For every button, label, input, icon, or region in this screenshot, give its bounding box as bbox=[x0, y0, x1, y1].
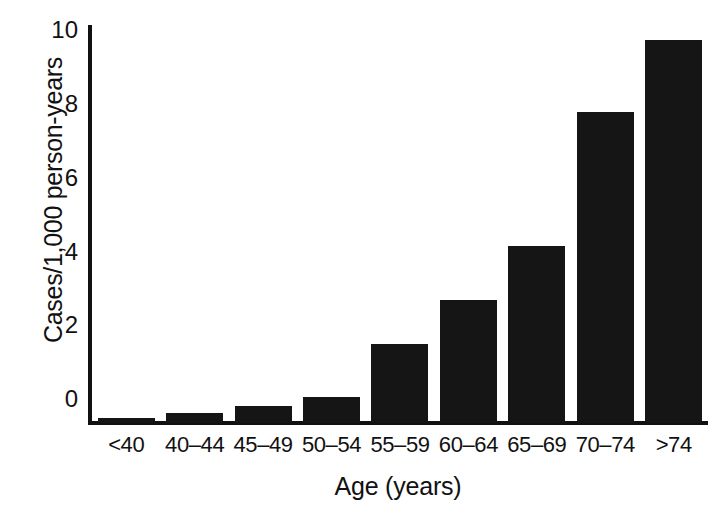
bar[interactable] bbox=[303, 397, 360, 423]
x-axis-tick-label: 65–69 bbox=[503, 430, 571, 460]
bar[interactable] bbox=[577, 112, 634, 423]
y-axis-title: Cases/1,000 person-years bbox=[36, 0, 70, 400]
bar-slot bbox=[229, 25, 297, 423]
x-axis-tick-label: 60–64 bbox=[434, 430, 502, 460]
x-axis-tick-label: 70–74 bbox=[571, 430, 639, 460]
x-axis-tick-label: 45–49 bbox=[229, 430, 297, 460]
x-axis-tick-label: 40–44 bbox=[160, 430, 228, 460]
bar-slot bbox=[160, 25, 228, 423]
bar[interactable] bbox=[235, 406, 292, 423]
bar-series bbox=[92, 25, 708, 423]
y-axis-tick-label: 8 bbox=[38, 92, 78, 116]
x-axis-tick-label: >74 bbox=[640, 430, 708, 460]
bar-slot bbox=[297, 25, 365, 423]
bar[interactable] bbox=[98, 418, 155, 423]
y-axis-tick-label: 10 bbox=[38, 18, 78, 42]
bar-slot bbox=[366, 25, 434, 423]
bar-chart-figure: Cases/1,000 person-years 0246810 <4040–4… bbox=[0, 0, 726, 517]
bar[interactable] bbox=[440, 300, 497, 423]
x-axis-tick-labels: <4040–4445–4950–5455–5960–6465–6970–74>7… bbox=[92, 430, 708, 460]
bar-slot bbox=[640, 25, 708, 423]
bar[interactable] bbox=[371, 344, 428, 423]
y-axis-tick-label: 6 bbox=[38, 166, 78, 190]
y-axis-tick-label: 0 bbox=[38, 387, 78, 411]
bar[interactable] bbox=[508, 246, 565, 423]
x-axis-title: Age (years) bbox=[88, 471, 708, 501]
bar-slot bbox=[571, 25, 639, 423]
x-axis-tick-label: 50–54 bbox=[297, 430, 365, 460]
y-axis-tick-label: 4 bbox=[38, 240, 78, 264]
x-axis-tick-label: 55–59 bbox=[366, 430, 434, 460]
bar-slot bbox=[434, 25, 502, 423]
plot-area: 0246810 bbox=[88, 25, 708, 423]
y-axis-tick-label: 2 bbox=[38, 313, 78, 337]
bar-slot bbox=[503, 25, 571, 423]
bar-slot bbox=[92, 25, 160, 423]
bar[interactable] bbox=[645, 40, 702, 423]
bar[interactable] bbox=[166, 413, 223, 423]
x-axis-tick-label: <40 bbox=[92, 430, 160, 460]
